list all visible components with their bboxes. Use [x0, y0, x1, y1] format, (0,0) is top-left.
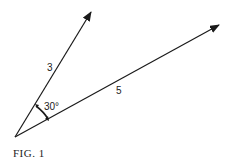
- vector-3: [15, 12, 91, 137]
- vector-diagram: [0, 0, 245, 163]
- vector-5: [15, 25, 219, 137]
- vector-5-label: 5: [116, 86, 122, 96]
- angle-label: 30°: [44, 102, 59, 112]
- vector-3-label: 3: [47, 63, 53, 73]
- figure-caption: FIG. 1: [13, 147, 45, 159]
